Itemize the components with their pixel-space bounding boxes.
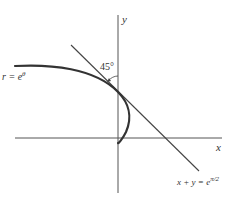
tangent-label-main: x + y = e [177, 177, 210, 187]
curve-label-exponent: θ [22, 70, 25, 78]
tangent-label-exponent: π/2 [210, 175, 219, 183]
angle-label: 45° [100, 62, 114, 72]
diagram-canvas [0, 0, 233, 200]
x-axis-label: x [216, 142, 221, 153]
tangent-label: x + y = eπ/2 [177, 176, 219, 187]
tangent-line [71, 45, 199, 171]
y-axis-label: y [122, 14, 127, 25]
curve-label: r = eθ [2, 71, 26, 82]
curve-label-main: r = e [2, 71, 22, 82]
angle-arc [109, 76, 118, 80]
